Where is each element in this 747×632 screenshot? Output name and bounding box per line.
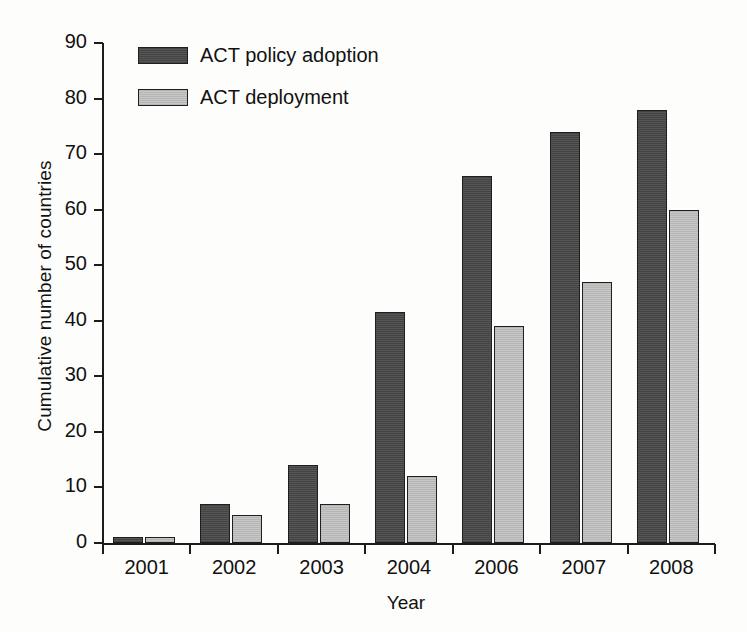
y-tick: 30 — [94, 375, 103, 377]
legend-swatch-icon — [138, 47, 188, 64]
x-tick-mark — [452, 544, 454, 554]
y-tick-mark — [94, 153, 103, 155]
x-axis-line — [102, 543, 715, 545]
bar — [145, 537, 175, 543]
bar — [669, 210, 699, 543]
y-tick-mark — [94, 375, 103, 377]
bar — [494, 326, 524, 543]
y-tick-mark — [94, 431, 103, 433]
bar — [113, 537, 143, 543]
bar — [637, 110, 667, 543]
y-tick-mark — [94, 320, 103, 322]
bar — [200, 504, 230, 543]
x-tick-label: 2008 — [628, 556, 715, 579]
x-tick-mark — [277, 544, 279, 554]
y-tick-label: 80 — [65, 86, 87, 109]
x-tick-label: 2002 — [190, 556, 277, 579]
bar — [462, 176, 492, 543]
y-tick-label: 90 — [65, 30, 87, 53]
y-tick-mark — [94, 209, 103, 211]
x-tick-label: 2003 — [278, 556, 365, 579]
y-tick: 20 — [94, 431, 103, 433]
bar — [375, 312, 405, 543]
y-tick: 10 — [94, 486, 103, 488]
y-tick: 60 — [94, 209, 103, 211]
bar — [550, 132, 580, 543]
legend-item-label: ACT deployment — [200, 86, 349, 109]
bar — [232, 515, 262, 543]
x-axis-title: Year — [96, 592, 716, 614]
y-tick-label: 20 — [65, 419, 87, 442]
y-tick-label: 0 — [76, 530, 87, 553]
chart-legend: ACT policy adoptionACT deployment — [138, 40, 379, 124]
y-axis-title: Cumulative number of countries — [34, 96, 56, 496]
x-tick-mark — [364, 544, 366, 554]
bar — [320, 504, 350, 543]
x-tick-mark — [539, 544, 541, 554]
y-tick: 90 — [94, 42, 103, 44]
bar — [407, 476, 437, 543]
x-tick-label: 2007 — [540, 556, 627, 579]
y-tick-mark — [94, 264, 103, 266]
legend-item-label: ACT policy adoption — [200, 44, 379, 67]
chart-figure: Cumulative number of countries 010203040… — [0, 0, 747, 632]
y-tick-label: 30 — [65, 363, 87, 386]
x-tick-mark — [714, 544, 716, 554]
y-tick: 80 — [94, 98, 103, 100]
x-tick-label: 2004 — [365, 556, 452, 579]
y-tick-label: 10 — [65, 474, 87, 497]
y-tick-label: 60 — [65, 197, 87, 220]
y-tick-mark — [94, 98, 103, 100]
legend-swatch-icon — [138, 89, 188, 106]
y-tick-label: 50 — [65, 252, 87, 275]
x-tick-label: 2006 — [453, 556, 540, 579]
y-tick-mark — [94, 486, 103, 488]
legend-item: ACT policy adoption — [138, 40, 379, 70]
x-tick-mark — [627, 544, 629, 554]
y-tick: 50 — [94, 264, 103, 266]
x-tick-mark — [189, 544, 191, 554]
x-tick-mark — [102, 544, 104, 554]
y-tick-label: 70 — [65, 141, 87, 164]
x-tick-label: 2001 — [103, 556, 190, 579]
bar — [582, 282, 612, 543]
y-tick-label: 40 — [65, 308, 87, 331]
bar — [288, 465, 318, 543]
y-tick: 40 — [94, 320, 103, 322]
legend-item: ACT deployment — [138, 82, 379, 112]
y-tick: 70 — [94, 153, 103, 155]
y-tick-mark — [94, 42, 103, 44]
